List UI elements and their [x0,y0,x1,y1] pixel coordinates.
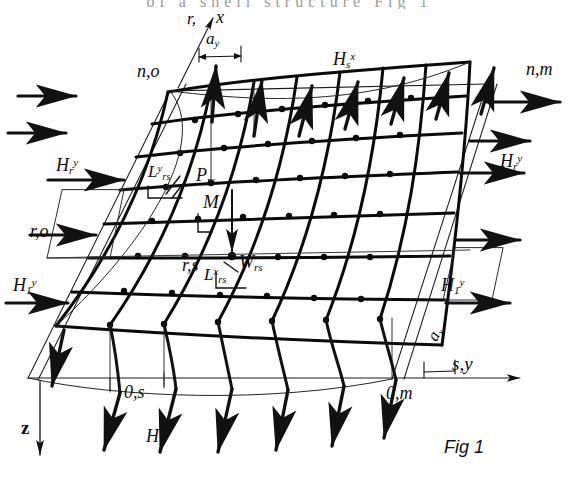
deflection-label-W-rs: Wrs [239,253,263,273]
axis-label-r-row: r, [187,10,196,27]
length-label-L-rs-x: Lxrs [204,266,226,285]
axis-label-z: z [21,418,29,437]
left-edge-force-arrows [6,96,124,303]
diagram-drawing [0,0,579,486]
force-label-left-H1y: H1y [13,276,37,296]
corner-label-n-o: n,o [137,62,160,80]
bottom-net-extensions [110,319,396,393]
axis-label-s-y: s,y [452,354,473,373]
force-label-top-Hsx: Hsx [333,50,355,70]
corner-label-0-s: 0,s [124,383,145,401]
length-label-L-rs-y: Lyrs [148,163,170,182]
moment-label-M: M [203,192,219,211]
mesh-weft-lines [56,62,470,345]
force-label-right-H1y: H1y [441,276,465,296]
force-label-bottom-Hsx: Hsx [146,427,168,447]
mesh-nodes [107,95,414,328]
dim-a-x [424,360,455,378]
force-label-right-Hry: Hry [500,152,522,172]
load-label-P-rs: Prs [196,166,216,186]
projector-lines [110,82,392,390]
force-label-left-Hry: Hry [56,156,78,176]
figure-canvas: of a shell structure Fig 1 [0,0,579,486]
row-label-r-o: r,o [30,222,49,240]
dim-label-a-y: ay [206,30,219,49]
figure-caption: Fig 1 [444,437,484,458]
corner-label-n-m: n,m [526,60,553,78]
corner-label-0-m: 0,m [386,384,413,402]
node-label-r-s: r,s [182,256,199,274]
axis-label-x: x [216,8,224,26]
